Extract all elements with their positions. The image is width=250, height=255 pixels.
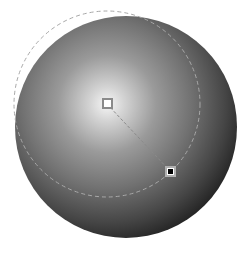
end-color-swatch	[168, 169, 173, 174]
gradient-sphere	[15, 16, 237, 238]
gradient-end-handle[interactable]	[165, 166, 176, 177]
gradient-canvas[interactable]	[0, 0, 250, 255]
gradient-start-handle[interactable]	[102, 98, 113, 109]
start-color-swatch	[105, 101, 110, 106]
